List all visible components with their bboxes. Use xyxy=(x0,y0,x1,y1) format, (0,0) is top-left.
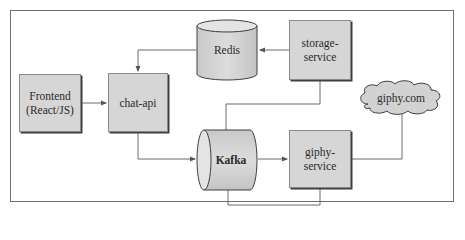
edge-chat-api-kafka xyxy=(138,133,195,159)
node-storage-service: storage- service xyxy=(289,20,351,80)
edge-giphy-service-giphy-com xyxy=(352,111,402,159)
node-giphy-service: giphy- service xyxy=(289,130,351,188)
edge-giphy-service-kafka xyxy=(228,189,320,205)
node-chat-api: chat-api xyxy=(108,73,168,132)
edge-redis-chat-api xyxy=(138,50,196,71)
node-chat-api-label: chat-api xyxy=(119,96,156,110)
node-giphy-com-label: giphy.com xyxy=(366,88,436,108)
node-kafka-label: Kafka xyxy=(208,146,254,174)
node-storage-service-label: storage- service xyxy=(301,36,338,64)
node-frontend-label: Frontend (React/JS) xyxy=(26,89,74,117)
edge-kafka-storage xyxy=(226,81,320,130)
node-giphy-service-label: giphy- service xyxy=(304,145,337,173)
node-frontend: Frontend (React/JS) xyxy=(19,74,81,132)
node-redis-label: Redis xyxy=(197,36,257,64)
